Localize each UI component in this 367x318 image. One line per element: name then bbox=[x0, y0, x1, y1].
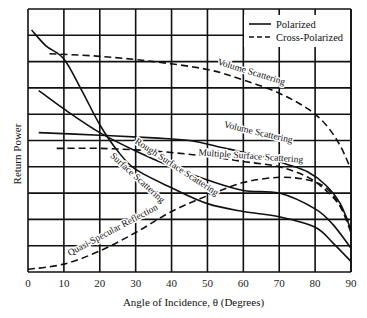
x-tick-label: 80 bbox=[310, 277, 322, 289]
legend-label: Polarized bbox=[276, 19, 316, 30]
chart: Volume ScatteringVolume ScatteringMultip… bbox=[0, 0, 367, 318]
annotations: Volume ScatteringVolume ScatteringMultip… bbox=[66, 57, 304, 258]
x-tick-label: 0 bbox=[25, 277, 31, 289]
annotation-label: Multiple Surface Scattering bbox=[198, 147, 304, 164]
x-tick-label: 70 bbox=[274, 277, 286, 289]
x-axis-label: Angle of Incidence, θ (Degrees) bbox=[0, 296, 367, 308]
x-tick-label: 60 bbox=[238, 277, 250, 289]
x-tick-label: 10 bbox=[58, 277, 70, 289]
x-tick-labels: 0102030405060708090 bbox=[25, 277, 357, 289]
y-axis-label: Return Power bbox=[11, 109, 23, 199]
x-tick-label: 90 bbox=[346, 277, 358, 289]
x-tick-label: 40 bbox=[166, 277, 178, 289]
x-tick-label: 50 bbox=[202, 277, 214, 289]
x-tick-label: 30 bbox=[130, 277, 142, 289]
annotation-label: Volume Scattering bbox=[223, 120, 294, 146]
legend-label: Cross-Polarized bbox=[276, 32, 344, 43]
annotation-label: Quasi-Specular Reflection bbox=[66, 202, 160, 258]
x-tick-label: 20 bbox=[94, 277, 106, 289]
curves bbox=[28, 30, 351, 269]
series-line bbox=[32, 30, 351, 261]
legend: PolarizedCross-Polarized bbox=[244, 15, 350, 47]
